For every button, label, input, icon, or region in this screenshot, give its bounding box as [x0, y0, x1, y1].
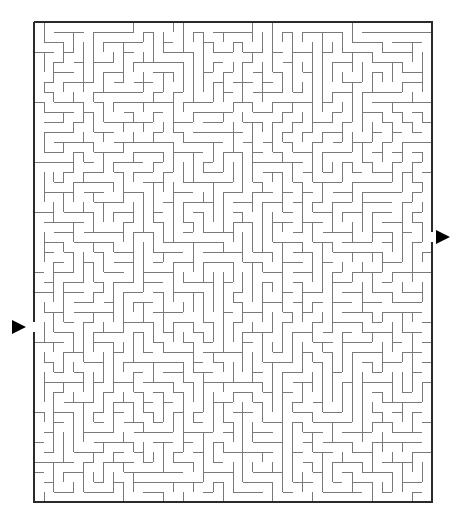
exit-arrow-icon [436, 230, 450, 244]
maze-walls [34, 22, 432, 502]
entrance-arrow-icon [12, 320, 26, 334]
maze-wall-lines [34, 22, 432, 502]
maze-board[interactable] [0, 0, 457, 528]
